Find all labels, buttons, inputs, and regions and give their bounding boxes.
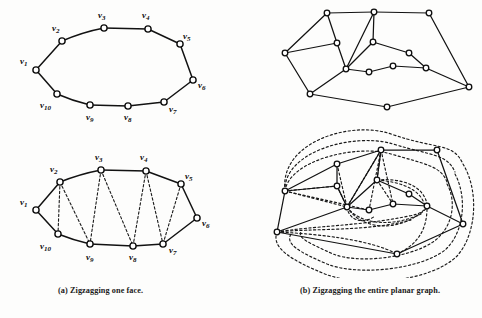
label-v9: v9: [86, 252, 94, 264]
edge-n3-n13: [429, 13, 469, 87]
label-v4: v4: [142, 10, 150, 22]
edge-v1-v2: [36, 41, 62, 70]
edge-n6-n14: [337, 43, 346, 69]
node-v2: [59, 38, 65, 44]
label-v5: v5: [185, 171, 193, 183]
edge-n8-n9: [369, 66, 393, 72]
edge-n2-n5: [373, 12, 374, 42]
node-v4: [145, 26, 151, 32]
node-n8: [366, 207, 372, 213]
label-v2: v2: [52, 23, 60, 35]
edge-v8-v9: [90, 105, 128, 106]
node-v8: [125, 103, 131, 109]
node-v2: [57, 179, 63, 185]
label-v8: v8: [124, 112, 132, 124]
edge-n12-n13: [387, 87, 469, 107]
node-n14: [344, 204, 350, 210]
node-v7: [161, 99, 167, 105]
edge-n14-n2: [346, 12, 374, 69]
dotted-edge-n5-n10b: [377, 180, 425, 206]
label-v1: v1: [20, 56, 28, 68]
node-n6: [334, 40, 340, 46]
node-n2: [371, 9, 377, 15]
edge-n11-n12: [277, 232, 397, 254]
edge-v6-v7: [164, 80, 193, 102]
node-n10: [423, 65, 429, 71]
node-v6: [194, 215, 200, 221]
edge-n1-n11: [277, 191, 285, 232]
edge-n9-n10: [393, 204, 427, 206]
edge-v3-v4: [101, 170, 146, 171]
edge-n14-n8: [346, 69, 369, 72]
label-v10: v10: [40, 100, 52, 112]
edge-n9-n10: [393, 66, 426, 68]
node-v4: [143, 168, 149, 174]
edge-n4-n2: [327, 12, 374, 13]
edge-n5-n14: [347, 180, 377, 207]
node-n12: [384, 104, 390, 110]
edge-n11-n14: [310, 69, 346, 94]
label-v3: v3: [98, 10, 106, 22]
edge-v9-v10: [57, 94, 90, 105]
panel-a-top-labels: v1 v2 v3 v4 v5 v6 v7 v8 v9 v10: [20, 10, 206, 124]
edge-n1-n4: [285, 13, 327, 53]
node-n5: [374, 177, 380, 183]
label-v6: v6: [198, 80, 206, 92]
node-v10: [55, 231, 61, 237]
panel-a-top-graph: v1 v2 v3 v4 v5 v6 v7 v8 v9 v10: [0, 0, 241, 130]
zigzag-edge-v2-v9: [60, 182, 90, 244]
label-v4: v4: [140, 152, 148, 164]
zigzag-edge-v4-v7: [146, 171, 163, 244]
node-n8: [366, 69, 372, 75]
node-n3: [434, 147, 440, 153]
node-n13: [466, 84, 472, 90]
edge-v8-v9: [90, 244, 133, 246]
panel-a-bottom-nodes: [33, 167, 200, 249]
node-n11: [307, 91, 313, 97]
node-n5: [370, 39, 376, 45]
node-n12: [394, 251, 400, 257]
dotted-edge-n1-n8: [285, 191, 369, 210]
node-n11: [274, 229, 280, 235]
node-v9: [87, 102, 93, 108]
caption-b: (b) Zigzagging the entire planar graph.: [300, 286, 440, 295]
node-n13: [460, 221, 466, 227]
label-v6: v6: [202, 218, 210, 230]
node-v10: [54, 91, 60, 97]
edge-v2-v3: [60, 170, 101, 182]
edge-v4-v5: [146, 171, 181, 184]
node-v3: [98, 167, 104, 173]
node-v5: [177, 41, 183, 47]
node-n9: [390, 63, 396, 69]
node-n14: [343, 66, 349, 72]
label-v7: v7: [169, 104, 177, 116]
edge-n5-n7: [373, 42, 409, 53]
edge-n11-n12: [310, 94, 387, 107]
edge-n1-n11: [285, 53, 310, 94]
edge-n12-n13: [397, 224, 463, 254]
edge-v6-v7: [163, 218, 197, 244]
node-v1: [33, 207, 39, 213]
edge-v2-v3: [62, 28, 104, 41]
node-n9: [390, 201, 396, 207]
edge-v1-v2: [36, 182, 60, 210]
edge-n4-n6: [327, 13, 337, 43]
zigzag-edge-v5-v7: [163, 184, 181, 244]
node-n7: [406, 50, 412, 56]
edge-n10-n13: [426, 68, 469, 87]
node-n1: [282, 50, 288, 56]
label-v3: v3: [95, 152, 103, 164]
panel-b-top-graph: [241, 0, 482, 125]
node-v9: [87, 241, 93, 247]
node-n6: [334, 183, 340, 189]
node-v7: [160, 241, 166, 247]
node-n4: [324, 10, 330, 16]
panel-a-bottom-zigzag-edges: [58, 170, 181, 246]
edge-n1-n6: [285, 43, 337, 53]
node-v8: [130, 243, 136, 249]
figure-root: v1 v2 v3 v4 v5 v6 v7 v8 v9 v10: [0, 0, 482, 318]
edge-n5-n14: [346, 42, 373, 69]
panel-b-bottom-nodes: [274, 147, 466, 257]
zigzag-edge-v4-v8: [133, 171, 146, 246]
panel-b-bottom-edges: [277, 150, 463, 254]
